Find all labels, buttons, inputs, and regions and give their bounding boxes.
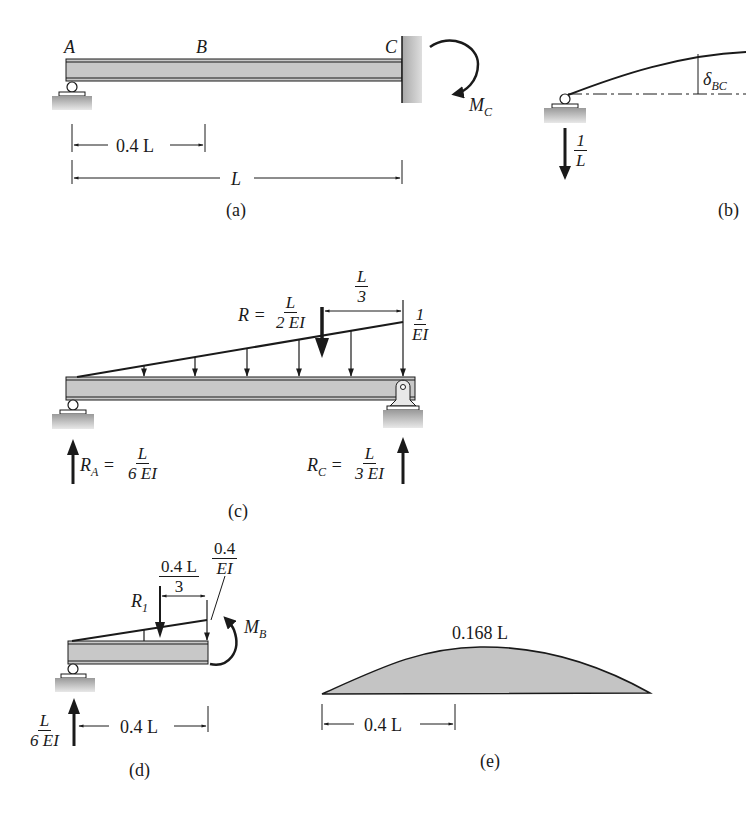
panel-b-unit-load-arrow <box>559 128 571 180</box>
panel-b-caption: (b) <box>718 201 739 219</box>
reaction-a-fraction: L6 EI <box>126 445 159 482</box>
panel-d-roller-support <box>55 664 95 692</box>
resultant-prefix: R = <box>238 306 266 324</box>
panel-c-reaction-c-arrow <box>397 437 409 484</box>
panel-d-caption: (d) <box>129 761 150 779</box>
panel-d-load-fraction: 0.4EI <box>212 540 237 577</box>
moment-b-label: MB <box>244 618 266 640</box>
panel-c-resultant-arrow <box>315 307 329 358</box>
panel-d-reaction-arrow <box>68 698 80 746</box>
peak-moment-label: 0.168 L <box>452 624 508 642</box>
panel-a-caption: (a) <box>226 201 246 219</box>
panel-d-lever-fraction: 0.4 L3 <box>159 558 199 595</box>
delta-bc-label: δBC <box>703 70 727 92</box>
dimension-partial-label: 0.4 L <box>116 137 154 155</box>
panel-b-roller-support <box>544 94 586 123</box>
panel-c-roller-support <box>52 400 94 429</box>
panel-e-dimension-label: 0.4 L <box>364 716 402 734</box>
panel-a-roller-support <box>52 82 92 110</box>
r1-label: R1 <box>131 592 148 614</box>
point-a-label: A <box>64 38 75 56</box>
diagram-canvas <box>0 0 746 814</box>
panel-d-reaction-fraction: L6 EI <box>28 712 61 749</box>
moment-c-label: MC <box>469 96 492 118</box>
unit-load-fraction: 1L <box>574 132 587 169</box>
dimension-total-label: L <box>231 170 241 188</box>
panel-d-dimension-label: 0.4 L <box>120 718 158 736</box>
panel-a-fixed-wall <box>402 36 422 103</box>
max-load-fraction: 1EI <box>410 306 430 343</box>
panel-c-reaction-a-arrow <box>67 439 79 484</box>
panel-a-moment-arrow <box>430 40 478 94</box>
reaction-c-fraction: L3 EI <box>353 445 386 482</box>
panel-d-moment-arrow <box>210 619 236 665</box>
panel-e-moment-diagram <box>322 647 650 694</box>
reaction-c-label: RC = <box>307 456 343 478</box>
resultant-fraction: L2 EI <box>274 294 307 331</box>
panel-d-beam <box>68 641 208 664</box>
panel-e-caption: (e) <box>480 752 500 770</box>
lever-arm-fraction: L3 <box>355 268 368 305</box>
panel-c-caption: (c) <box>228 502 248 520</box>
panel-d-triangular-load <box>72 576 225 641</box>
point-c-label: C <box>385 38 397 56</box>
point-b-label: B <box>196 38 207 56</box>
reaction-a-label: RA = <box>80 456 115 478</box>
panel-a-beam <box>66 59 402 81</box>
panel-c-beam <box>66 377 415 400</box>
